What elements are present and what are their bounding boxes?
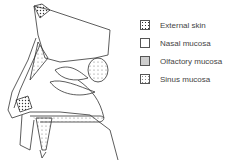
sinus-mucosa-swatch-icon <box>140 74 150 84</box>
external-skin-swatch-icon <box>140 20 150 30</box>
legend-item-sinus-mucosa: Sinus mucosa <box>140 71 222 87</box>
legend-label: Nasal mucosa <box>160 39 211 48</box>
nasal-mucosa-swatch-icon <box>140 38 150 48</box>
olfactory-mucosa-swatch-icon <box>140 56 150 66</box>
legend-label: Sinus mucosa <box>160 75 210 84</box>
legend-item-olfactory-mucosa: Olfactory mucosa <box>140 53 222 69</box>
nasal-cavity-diagram <box>0 0 130 166</box>
legend-item-external-skin: External skin <box>140 17 222 33</box>
legend-label: External skin <box>160 21 206 30</box>
legend-item-nasal-mucosa: Nasal mucosa <box>140 35 222 51</box>
legend: External skin Nasal mucosa Olfactory muc… <box>140 17 222 89</box>
legend-label: Olfactory mucosa <box>160 57 222 66</box>
